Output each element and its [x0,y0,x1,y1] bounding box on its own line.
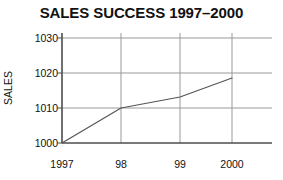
x-tick-label-1997: 1997 [32,158,92,170]
horizontal-gridlines [62,38,272,108]
plot-area [0,0,283,180]
series-line-sales [62,78,232,143]
x-tick-label-99: 99 [150,158,210,170]
vertical-gridlines [121,33,232,143]
x-tick-label-2000: 2000 [202,158,262,170]
sales-line-chart: SALES SUCCESS 1997–2000 SALES 1030 1020 … [0,0,283,180]
x-tick-label-98: 98 [91,158,151,170]
